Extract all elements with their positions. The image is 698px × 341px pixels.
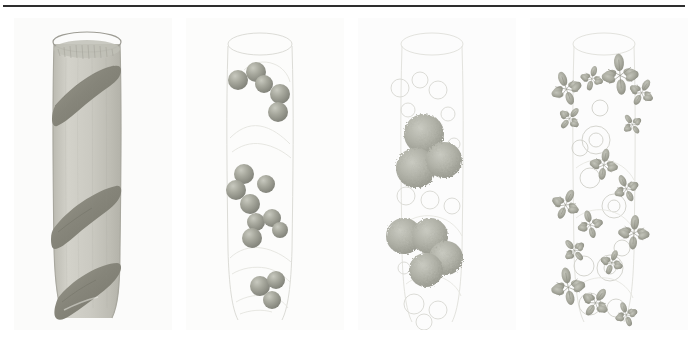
panel-2-artwork: [186, 18, 344, 330]
foliage-cluster: [544, 66, 588, 110]
ring-motif: [429, 81, 447, 99]
ring-motif: [397, 187, 415, 205]
ring-motif: [398, 262, 410, 274]
rosette: [592, 100, 608, 116]
foliage-cluster: [552, 100, 587, 135]
panel-4-artwork: [530, 18, 688, 330]
rosette: [589, 133, 603, 147]
panel-3-stem-with-clustered-aggregates: [358, 18, 516, 330]
panel-1-stem-with-spiral-band: [14, 18, 172, 330]
rosette: [602, 194, 626, 218]
sphere: [268, 102, 288, 122]
sphere: [228, 70, 248, 90]
ring-motif: [412, 72, 428, 88]
ring-motif: [391, 79, 409, 97]
aggregate-cluster: [426, 142, 462, 178]
rosette: [608, 200, 620, 212]
foliage-cluster: [586, 146, 622, 182]
panel-strip: [0, 18, 698, 330]
sphere: [263, 291, 281, 309]
ring-motif: [444, 198, 460, 214]
sphere: [272, 222, 288, 238]
ring-motif: [421, 191, 439, 209]
foliage-cluster: [573, 207, 607, 242]
rosette: [580, 168, 600, 188]
sphere: [242, 228, 262, 248]
foliage-cluster: [610, 298, 642, 330]
ring-motif: [441, 107, 455, 121]
ring-motif: [416, 314, 432, 330]
foliage-cluster: [546, 264, 589, 308]
sphere: [270, 84, 290, 104]
panel-3-artwork: [358, 18, 516, 330]
foliage-cluster: [607, 169, 644, 207]
panel-2-stem-with-sparse-spheres: [186, 18, 344, 330]
sphere: [267, 271, 285, 289]
foliage-cluster: [545, 183, 587, 225]
stem-rim: [53, 32, 121, 59]
figure-top-rule: [3, 5, 685, 7]
sphere: [255, 75, 273, 93]
foliage-cluster-group: [544, 52, 661, 330]
panel-1-artwork: [14, 18, 172, 330]
aggregate-cluster-group: [386, 114, 463, 287]
sphere: [240, 194, 260, 214]
foliage-cluster: [615, 213, 652, 251]
panel-4-stem-with-foliage-clusters: [530, 18, 688, 330]
foliage-cluster: [617, 109, 648, 140]
ring-motif: [401, 103, 415, 117]
sphere: [257, 175, 275, 193]
ring-motif: [429, 301, 447, 319]
aggregate-cluster: [409, 253, 443, 287]
rosette: [572, 140, 588, 156]
figure-root: [0, 0, 698, 341]
rosette: [574, 256, 594, 276]
